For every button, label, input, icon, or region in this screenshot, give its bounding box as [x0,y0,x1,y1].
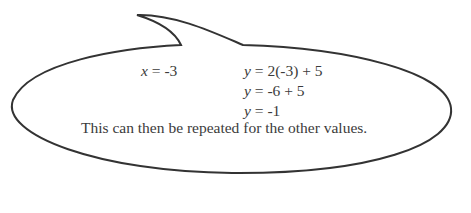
summary-text: This can then be repeated for the other … [81,119,367,137]
y-variable: y [244,62,251,79]
speech-bubble-outline [12,15,451,173]
working-expression: = 2(-3) + 5 [251,62,323,79]
y-variable: y [244,82,251,99]
working-expression: = -1 [251,102,280,119]
y-variable: y [244,102,251,119]
working-line-2: y = -6 + 5 [244,82,305,100]
working-line-1: y = 2(-3) + 5 [244,62,323,80]
x-value: = -3 [148,62,177,79]
x-variable: x [141,62,148,79]
speech-bubble [0,0,471,213]
working-line-3: y = -1 [244,102,280,120]
working-expression: = -6 + 5 [251,82,305,99]
x-substitution: x = -3 [141,62,177,80]
